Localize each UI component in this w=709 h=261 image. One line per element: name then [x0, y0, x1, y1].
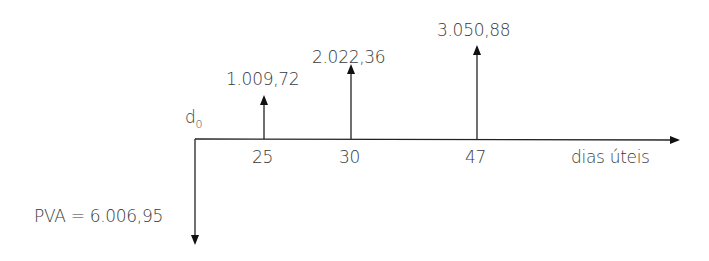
origin-label: d0 — [185, 109, 202, 126]
inflow-value-25: 1.009,72 — [226, 71, 299, 88]
inflow-value-30: 2.022,36 — [312, 49, 385, 66]
inflow-value-47: 3.050,88 — [437, 22, 510, 39]
present-value-label: PVA = 6.006,95 — [34, 208, 163, 225]
origin-letter: d — [185, 107, 196, 127]
origin-subscript: 0 — [196, 118, 203, 131]
tick-label-30: 30 — [339, 149, 360, 166]
tick-label-25: 25 — [252, 149, 273, 166]
axis-label: dias úteis — [571, 149, 650, 166]
tick-label-47: 47 — [465, 149, 486, 166]
time-axis — [195, 139, 678, 140]
